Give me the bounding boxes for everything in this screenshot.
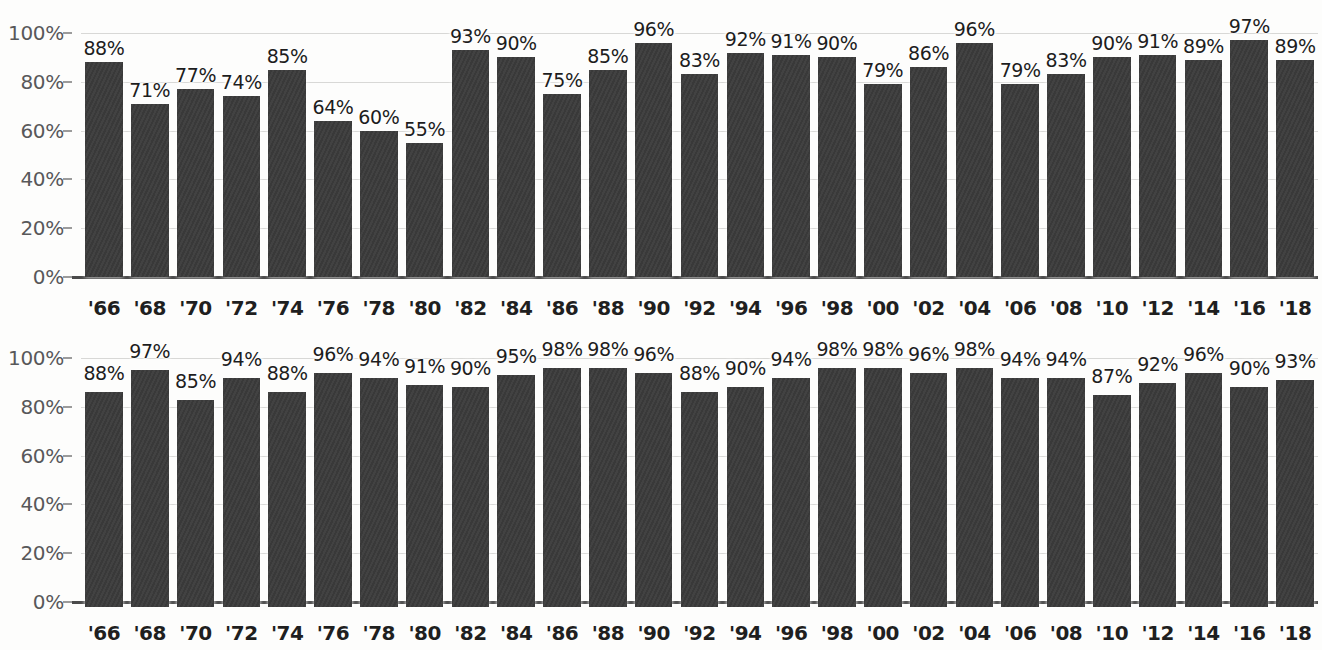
bar-group[interactable]: 64%'76 bbox=[310, 0, 356, 320]
bar-group[interactable]: 98%'04 bbox=[951, 325, 997, 650]
bar-group[interactable]: 88%'66 bbox=[81, 0, 127, 320]
bar[interactable] bbox=[1047, 74, 1085, 277]
bar[interactable] bbox=[268, 392, 306, 607]
bar-group[interactable]: 95%'84 bbox=[493, 325, 539, 650]
bar[interactable] bbox=[635, 373, 673, 607]
bar-group[interactable]: 96%'02 bbox=[906, 325, 952, 650]
bar[interactable] bbox=[1185, 60, 1223, 277]
y-tick-mark bbox=[63, 455, 72, 457]
bar[interactable] bbox=[177, 400, 215, 607]
bar-group[interactable]: 98%'86 bbox=[539, 325, 585, 650]
bar-group[interactable]: 85%'70 bbox=[173, 325, 219, 650]
bar-group[interactable]: 86%'02 bbox=[906, 0, 952, 320]
bar[interactable] bbox=[360, 131, 398, 277]
bar[interactable] bbox=[1230, 40, 1268, 277]
y-tick-mark bbox=[63, 276, 72, 278]
bar[interactable] bbox=[543, 368, 581, 607]
bar-group[interactable]: 96%'90 bbox=[631, 0, 677, 320]
bar[interactable] bbox=[223, 96, 261, 277]
y-tick-mark bbox=[63, 178, 72, 180]
bar[interactable] bbox=[131, 104, 169, 277]
bar[interactable] bbox=[497, 375, 535, 607]
bar-group[interactable]: 55%'80 bbox=[402, 0, 448, 320]
bar-group[interactable]: 93%'18 bbox=[1272, 325, 1318, 650]
bar[interactable] bbox=[1001, 84, 1039, 277]
bar-group[interactable]: 90%'16 bbox=[1226, 325, 1272, 650]
bar[interactable] bbox=[1139, 55, 1177, 277]
bar[interactable] bbox=[635, 43, 673, 277]
bar-group[interactable]: 85%'74 bbox=[264, 0, 310, 320]
bar-chart-top: 0%20%40%60%80%100% 88%'6671%'6877%'7074%… bbox=[0, 0, 1322, 320]
bar-group[interactable]: 98%'98 bbox=[814, 325, 860, 650]
bar-group[interactable]: 94%'96 bbox=[768, 325, 814, 650]
bar-group[interactable]: 92%'12 bbox=[1135, 325, 1181, 650]
bar-group[interactable]: 89%'14 bbox=[1181, 0, 1227, 320]
bar[interactable] bbox=[406, 143, 444, 277]
bar[interactable] bbox=[452, 387, 490, 607]
y-tick-label: 0% bbox=[33, 590, 64, 614]
bar[interactable] bbox=[1230, 387, 1268, 607]
bar[interactable] bbox=[452, 50, 490, 277]
y-tick-label: 20% bbox=[20, 541, 64, 565]
bar-group[interactable]: 94%'06 bbox=[997, 325, 1043, 650]
bar[interactable] bbox=[314, 373, 352, 607]
bar[interactable] bbox=[727, 387, 765, 607]
bar[interactable] bbox=[910, 67, 948, 277]
bar[interactable] bbox=[1276, 380, 1314, 607]
x-tick-label: '18 bbox=[1260, 621, 1322, 645]
bar[interactable] bbox=[818, 57, 856, 277]
bar-group[interactable]: 96%'04 bbox=[951, 0, 997, 320]
bar[interactable] bbox=[85, 392, 123, 607]
bar-group[interactable]: 89%'18 bbox=[1272, 0, 1318, 320]
bar[interactable] bbox=[223, 378, 261, 607]
bar-group[interactable]: 90%'84 bbox=[493, 0, 539, 320]
bars-bottom: 88%'6697%'6885%'7094%'7288%'7496%'7694%'… bbox=[81, 325, 1318, 650]
bar-group[interactable]: 90%'98 bbox=[814, 0, 860, 320]
bar[interactable] bbox=[589, 368, 627, 607]
bar[interactable] bbox=[543, 94, 581, 277]
bar[interactable] bbox=[1047, 378, 1085, 607]
bar[interactable] bbox=[1276, 60, 1314, 277]
bar[interactable] bbox=[406, 385, 444, 607]
bar-value-label: 93% bbox=[1261, 350, 1322, 372]
bar[interactable] bbox=[727, 53, 765, 277]
bar-group[interactable]: 77%'70 bbox=[173, 0, 219, 320]
y-tick-label: 60% bbox=[20, 119, 64, 143]
bars-top: 88%'6671%'6877%'7074%'7285%'7464%'7660%'… bbox=[81, 0, 1318, 320]
bar-group[interactable]: 85%'88 bbox=[585, 0, 631, 320]
bar[interactable] bbox=[1093, 395, 1131, 607]
bar-group[interactable]: 79%'06 bbox=[997, 0, 1043, 320]
bar[interactable] bbox=[772, 378, 810, 607]
bar[interactable] bbox=[1001, 378, 1039, 607]
bar[interactable] bbox=[864, 84, 902, 277]
bar[interactable] bbox=[1139, 383, 1177, 607]
y-tick-mark bbox=[63, 32, 72, 34]
y-tick-label: 40% bbox=[20, 492, 64, 516]
bar[interactable] bbox=[818, 368, 856, 607]
bar[interactable] bbox=[681, 392, 719, 607]
bar[interactable] bbox=[1093, 57, 1131, 277]
bar[interactable] bbox=[131, 370, 169, 607]
bar-group[interactable]: 88%'74 bbox=[264, 325, 310, 650]
bar[interactable] bbox=[772, 55, 810, 277]
y-tick-label: 100% bbox=[8, 346, 64, 370]
bar[interactable] bbox=[314, 121, 352, 277]
bar-group[interactable]: 98%'88 bbox=[585, 325, 631, 650]
bar-group[interactable]: 96%'76 bbox=[310, 325, 356, 650]
bar[interactable] bbox=[1185, 373, 1223, 607]
bar-group[interactable]: 98%'00 bbox=[860, 325, 906, 650]
bar[interactable] bbox=[910, 373, 948, 607]
y-tick-label: 80% bbox=[20, 70, 64, 94]
bar[interactable] bbox=[589, 70, 627, 277]
y-axis-top: 0%20%40%60%80%100% bbox=[0, 0, 72, 320]
bar-group[interactable]: 90%'82 bbox=[448, 325, 494, 650]
bar[interactable] bbox=[177, 89, 215, 277]
bar-group[interactable]: 71%'68 bbox=[127, 0, 173, 320]
bar[interactable] bbox=[864, 368, 902, 607]
bar[interactable] bbox=[681, 74, 719, 277]
bar-group[interactable]: 90%'94 bbox=[722, 325, 768, 650]
bar-group[interactable]: 88%'66 bbox=[81, 325, 127, 650]
bar[interactable] bbox=[956, 368, 994, 607]
bar-group[interactable]: 60%'78 bbox=[356, 0, 402, 320]
bar[interactable] bbox=[360, 378, 398, 607]
